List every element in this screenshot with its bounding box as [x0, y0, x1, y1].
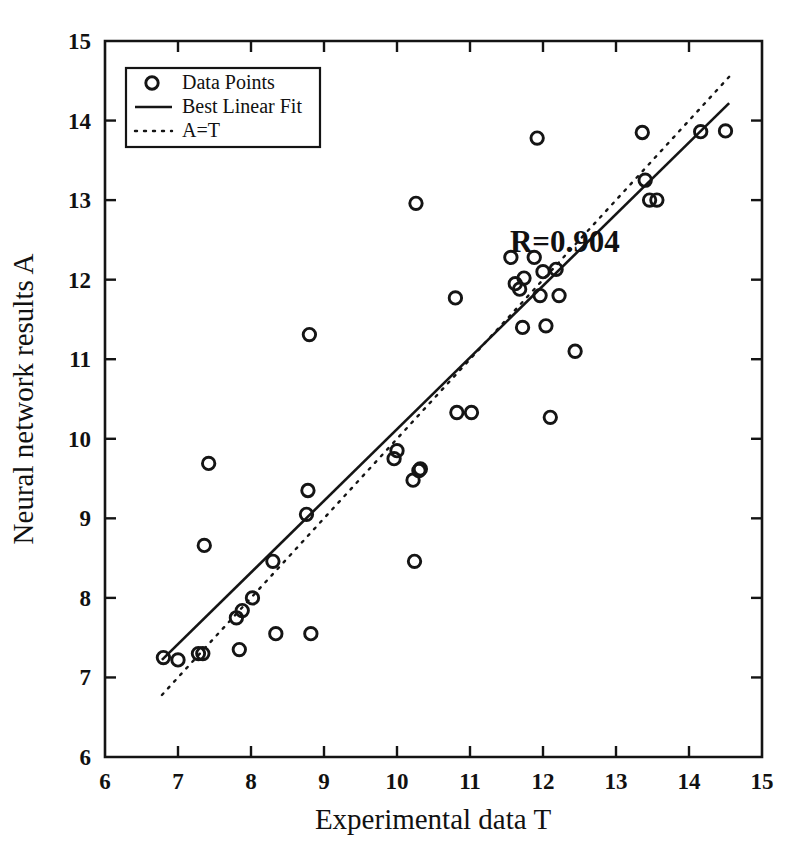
legend-item-label: Best Linear Fit [182, 95, 302, 117]
y-tick-label: 12 [68, 268, 91, 293]
y-tick-label: 13 [68, 188, 91, 213]
x-axis-title: Experimental data T [315, 803, 551, 835]
x-tick-label: 9 [318, 769, 330, 794]
r-value-label: R=0.904 [510, 224, 620, 259]
x-tick-label: 6 [99, 769, 111, 794]
y-tick-label: 8 [80, 586, 92, 611]
x-tick-label: 8 [245, 769, 257, 794]
legend-item-label: Data Points [182, 71, 275, 93]
x-tick-label: 12 [532, 769, 555, 794]
chart-legend: Data PointsBest Linear FitA=T [126, 68, 320, 147]
x-tick-label: 10 [386, 769, 409, 794]
x-tick-label: 7 [172, 769, 184, 794]
x-tick-label: 14 [678, 769, 702, 794]
y-axis-title: Neural network results A [7, 254, 39, 545]
correlation-annotation: R=0.904 [510, 224, 620, 259]
scatter-plot-figure: 6789101112131415 6789101112131415 R=0.90… [0, 0, 801, 865]
y-tick-label: 11 [69, 347, 91, 372]
y-tick-label: 14 [68, 109, 92, 134]
y-tick-label: 6 [80, 745, 92, 770]
x-tick-label: 11 [459, 769, 481, 794]
x-tick-label: 13 [605, 769, 628, 794]
plot-canvas: 6789101112131415 6789101112131415 R=0.90… [0, 0, 801, 865]
y-tick-label: 10 [68, 427, 91, 452]
legend-item-label: A=T [182, 119, 220, 141]
y-tick-label: 15 [68, 29, 91, 54]
y-tick-label: 7 [80, 665, 92, 690]
y-tick-label: 9 [80, 506, 92, 531]
x-tick-label: 15 [751, 769, 774, 794]
